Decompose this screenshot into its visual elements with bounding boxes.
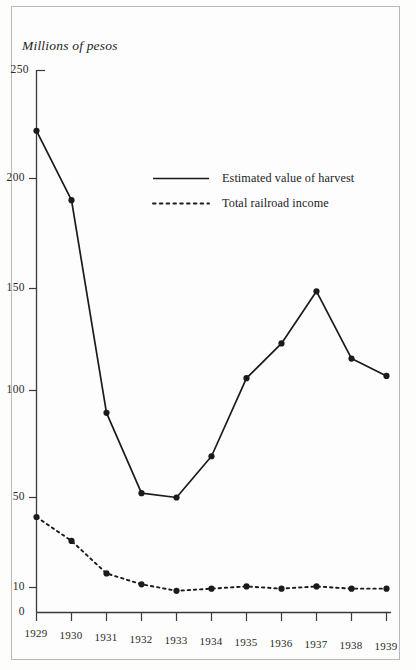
railroad-point-1933 (173, 588, 179, 594)
harvest-point-1933 (173, 494, 179, 500)
harvest-point-1930 (68, 197, 74, 203)
harvest-point-1938 (348, 356, 354, 362)
chart-plot-area (0, 0, 416, 670)
railroad-point-1935 (243, 583, 249, 589)
y-tick-label-10: 10 (0, 580, 25, 592)
railroad-point-1938 (348, 586, 354, 592)
axis-lines (37, 70, 392, 613)
y-tick-label-150: 150 (0, 281, 25, 293)
legend-label-harvest: Estimated value of harvest (222, 171, 354, 186)
series-total-railroad-income (33, 514, 389, 594)
y-tick-label-250: 250 (0, 63, 29, 75)
y-tick-label-50: 50 (0, 490, 25, 502)
y-tick-label-0: 0 (0, 605, 25, 617)
chart-page: Millions of pesos (0, 0, 416, 670)
x-tick-label-1939: 1939 (364, 640, 408, 652)
harvest-point-1937 (313, 288, 319, 294)
harvest-point-1936 (278, 340, 284, 346)
legend-swatches (153, 179, 209, 204)
y-tick-marks (29, 179, 37, 588)
harvest-point-1929 (33, 128, 39, 134)
railroad-point-1932 (138, 581, 144, 587)
legend-label-railroad: Total railroad income (222, 196, 329, 211)
harvest-point-1932 (138, 490, 144, 496)
railroad-point-1931 (103, 570, 109, 576)
railroad-line (37, 517, 387, 591)
x-tick-marks (37, 613, 387, 622)
railroad-point-1929 (33, 514, 39, 520)
railroad-point-1930 (68, 538, 74, 544)
railroad-point-1937 (313, 583, 319, 589)
railroad-point-1939 (383, 586, 389, 592)
harvest-point-1931 (103, 410, 109, 416)
y-tick-label-100: 100 (0, 383, 25, 395)
railroad-point-1934 (208, 586, 214, 592)
y-tick-label-200: 200 (0, 171, 25, 183)
railroad-point-1936 (278, 586, 284, 592)
harvest-point-1939 (383, 373, 389, 379)
harvest-point-1934 (208, 453, 214, 459)
harvest-point-1935 (243, 375, 249, 381)
